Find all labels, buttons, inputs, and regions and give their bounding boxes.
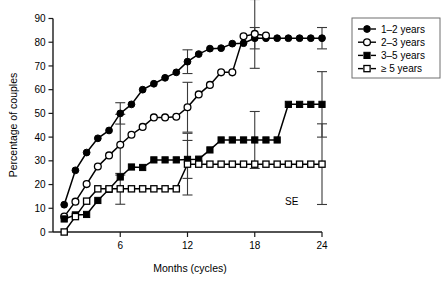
x-axis: 6121824 [53,232,328,251]
marker-filled-square [95,197,101,203]
legend-entry-label: ≥ 5 years [381,63,422,74]
marker-open-square [106,186,112,192]
marker-filled-circle [274,35,281,42]
legend: 1–2 years2–3 years3–5 years≥ 5 years [352,18,440,78]
marker-filled-square [128,164,134,170]
y-tick-label: 70 [34,61,46,72]
marker-filled-square [274,137,280,143]
marker-open-square [140,186,146,192]
marker-open-square [252,161,258,167]
marker-filled-circle [106,127,113,134]
legend-entry-label: 3–5 years [381,50,425,61]
marker-filled-circle [150,80,157,87]
marker-filled-square [151,157,157,163]
chart-figure: 0102030405060708090 6121824 SE 1–2 years… [0,0,447,284]
x-tick-label: 12 [182,240,194,251]
marker-open-circle [218,69,225,76]
y-tick-label: 50 [34,108,46,119]
marker-filled-square [173,157,179,163]
marker-filled-square [207,147,213,153]
marker-open-circle [364,39,371,46]
y-tick-label: 30 [34,155,46,166]
marker-filled-circle [128,101,135,108]
marker-open-square [240,161,246,167]
marker-filled-square [319,101,325,107]
marker-filled-circle [207,45,214,52]
marker-open-square [117,186,123,192]
marker-open-square [218,161,224,167]
marker-filled-square [308,101,314,107]
se-annotation: SE [285,196,299,207]
marker-filled-circle [173,69,180,76]
x-tick-label: 6 [117,240,123,251]
marker-open-square [162,186,168,192]
marker-open-square [173,186,179,192]
marker-filled-square [285,101,291,107]
marker-filled-circle [61,201,68,208]
se-text: SE [285,196,299,207]
y-tick-label: 40 [34,132,46,143]
marker-open-circle [139,124,146,131]
marker-filled-square [218,137,224,143]
marker-open-circle [128,131,135,138]
marker-filled-square [84,211,90,217]
y-axis-title: Percentage of couples [7,73,19,178]
marker-open-square [72,213,78,219]
marker-filled-square [117,174,123,180]
y-tick-label: 20 [34,179,46,190]
marker-open-circle [207,82,214,89]
error-bars [115,0,327,204]
marker-open-square [184,161,190,167]
marker-open-square [128,186,134,192]
marker-open-circle [106,152,113,159]
x-axis-title: Months (cycles) [153,262,227,274]
y-tick-label: 10 [34,203,46,214]
y-tick-label: 0 [40,227,46,238]
marker-filled-circle [296,35,303,42]
marker-filled-square [61,216,67,222]
marker-filled-circle [94,135,101,142]
y-axis: 0102030405060708090 [34,13,53,238]
x-tick-label: 24 [316,240,328,251]
marker-open-square [229,161,235,167]
marker-filled-square [140,164,146,170]
marker-open-square [84,198,90,204]
marker-open-square [319,161,325,167]
marker-open-circle [173,113,180,120]
marker-filled-circle [139,86,146,93]
marker-open-circle [94,163,101,170]
marker-open-square [274,161,280,167]
legend-entry-label: 2–3 years [381,37,425,48]
marker-open-square [263,161,269,167]
marker-filled-circle [229,40,236,47]
marker-open-circle [72,198,79,205]
marker-filled-circle [218,45,225,52]
marker-open-circle [162,114,169,121]
marker-open-circle [150,114,157,121]
marker-filled-circle [184,58,191,65]
marker-open-circle [263,32,270,39]
marker-open-circle [184,104,191,111]
marker-filled-square [263,137,269,143]
marker-open-circle [240,33,247,40]
marker-filled-circle [285,35,292,42]
marker-filled-circle [162,74,169,81]
marker-open-square [207,161,213,167]
marker-open-square [151,186,157,192]
marker-open-circle [229,69,236,76]
marker-filled-square [364,52,370,58]
marker-open-square [364,66,370,72]
marker-filled-square [240,137,246,143]
series-1 [61,35,326,208]
marker-open-square [61,229,67,235]
marker-filled-square [252,137,258,143]
marker-open-circle [195,91,202,98]
marker-open-square [285,161,291,167]
marker-filled-circle [72,167,79,174]
line-chart: 0102030405060708090 6121824 SE 1–2 years… [0,0,447,284]
marker-filled-circle [319,35,326,42]
series-line [64,164,322,232]
marker-filled-circle [83,149,90,156]
marker-open-square [95,186,101,192]
marker-open-circle [117,141,124,148]
